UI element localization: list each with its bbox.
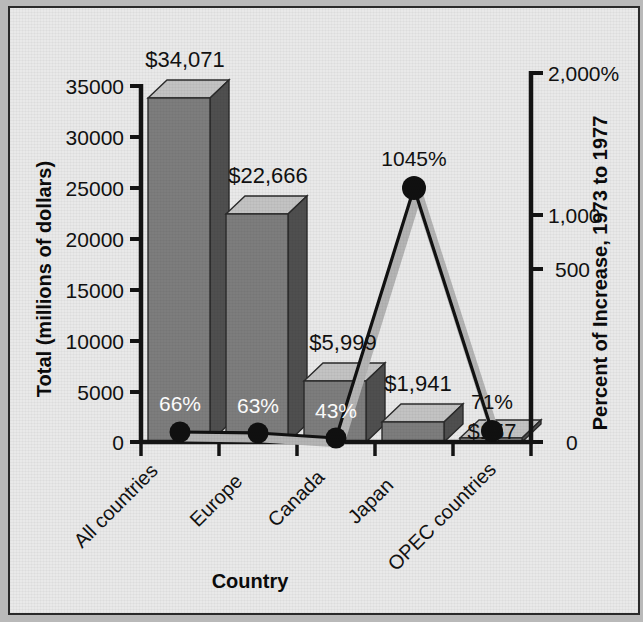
bar-all-countries	[148, 80, 229, 442]
point-label-opec-countries: 71%	[471, 391, 513, 412]
left-axis-tick-15000: 15000	[10, 280, 124, 301]
x-axis-title: Country	[10, 571, 490, 591]
left-axis-tick-10000: 10000	[10, 331, 124, 352]
left-axis-tick-20000: 20000	[10, 229, 124, 250]
right-axis	[531, 71, 543, 444]
right-axis-tick-0: 0	[566, 432, 578, 453]
left-axis	[130, 84, 141, 444]
left-axis-tick-35000: 35000	[10, 76, 124, 97]
point-label-all-countries: 66%	[159, 393, 201, 414]
left-axis-title: Total (millions of dollars)	[34, 129, 54, 429]
chart-plot-area: 35000 30000 25000 20000 15000 10000 5000…	[10, 8, 638, 613]
point-label-japan: 1045%	[381, 148, 446, 169]
left-axis-tick-30000: 30000	[10, 127, 124, 148]
right-axis-tick-2000: 2,000%	[548, 63, 619, 84]
left-axis-tick-25000: 25000	[10, 178, 124, 199]
right-axis-title: Percent of Increase, 1973 to 1977	[590, 113, 610, 433]
point-label-canada: 43%	[315, 400, 357, 421]
point-label-europe: 63%	[237, 395, 279, 416]
left-axis-tick-0: 0	[10, 432, 124, 453]
left-axis-tick-5000: 5000	[10, 382, 124, 403]
bar-japan	[382, 404, 463, 442]
bar-label-canada: $5,999	[309, 332, 376, 354]
bar-label-europe: $22,666	[228, 165, 308, 187]
chart-figure: 35000 30000 25000 20000 15000 10000 5000…	[8, 6, 640, 615]
bar-label-japan: $1,941	[384, 373, 451, 395]
right-axis-tick-500: 500	[555, 259, 590, 280]
bar-label-all-countries: $34,071	[145, 49, 225, 71]
bar-label-opec-countries: $157	[468, 421, 517, 443]
